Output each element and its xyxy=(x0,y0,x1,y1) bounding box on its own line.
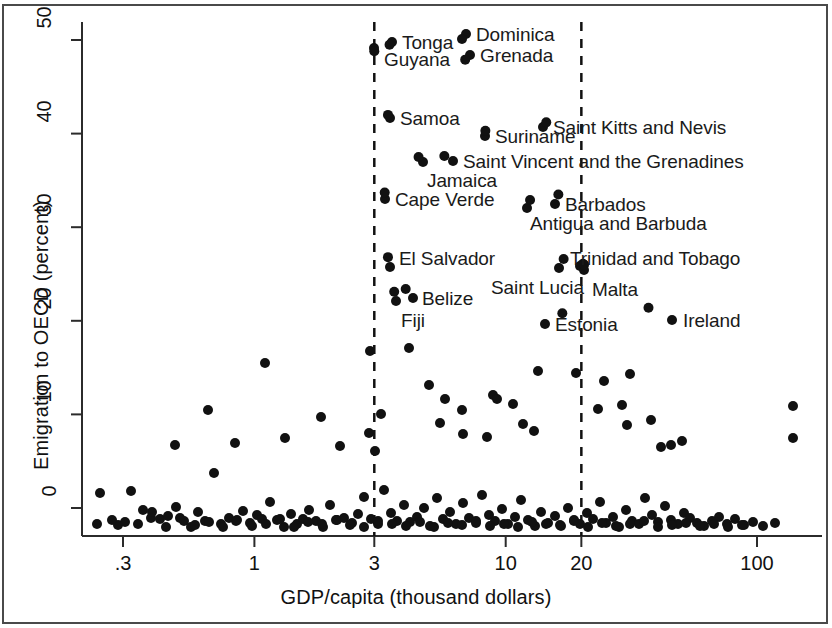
data-point xyxy=(260,358,270,368)
data-point xyxy=(660,501,670,511)
data-point xyxy=(275,514,285,524)
data-point xyxy=(203,405,213,415)
data-point xyxy=(621,505,631,515)
data-point xyxy=(510,512,520,522)
data-points xyxy=(92,29,798,532)
data-point xyxy=(788,401,798,411)
data-point xyxy=(695,521,705,531)
data-point xyxy=(399,500,409,510)
data-point xyxy=(364,428,374,438)
data-point xyxy=(499,519,509,529)
data-point xyxy=(171,502,181,512)
data-point xyxy=(653,522,663,532)
data-point-grenada xyxy=(460,55,470,65)
data-point xyxy=(518,419,528,429)
data-point-cape-verde xyxy=(380,188,390,198)
data-point xyxy=(415,517,425,527)
data-point xyxy=(597,518,607,528)
data-point xyxy=(435,418,445,428)
data-point xyxy=(477,490,487,500)
data-point xyxy=(536,507,546,517)
data-point xyxy=(770,518,780,528)
data-point xyxy=(265,497,275,507)
data-point xyxy=(289,522,299,532)
data-point xyxy=(316,412,326,422)
data-point xyxy=(401,521,411,531)
data-point-belize xyxy=(401,284,411,294)
data-point xyxy=(95,488,105,498)
data-point xyxy=(286,509,296,519)
point-label-grenada: Grenada xyxy=(480,45,553,67)
data-point xyxy=(527,517,537,527)
data-point xyxy=(667,315,677,325)
data-point-fiji xyxy=(389,287,399,297)
data-point-el-salvador xyxy=(383,252,393,262)
data-point xyxy=(563,503,573,513)
data-point xyxy=(386,508,396,518)
data-point xyxy=(218,522,228,532)
data-point xyxy=(448,156,458,166)
data-point xyxy=(569,515,579,525)
data-point xyxy=(625,369,635,379)
data-point xyxy=(639,516,649,526)
point-label-samoa: Samoa xyxy=(400,108,460,130)
data-point xyxy=(555,520,565,530)
data-point xyxy=(365,346,375,356)
data-point xyxy=(304,505,314,515)
data-point xyxy=(379,485,389,495)
data-point xyxy=(595,497,605,507)
data-point xyxy=(508,399,518,409)
point-label-malta: Malta xyxy=(592,279,638,301)
y-axis-title: Emigration to OECD (percent) xyxy=(30,200,53,470)
data-point xyxy=(458,498,468,508)
data-point xyxy=(485,521,495,531)
data-point xyxy=(457,405,467,415)
data-point xyxy=(622,420,632,430)
data-point xyxy=(723,522,733,532)
data-point xyxy=(540,319,550,329)
data-point xyxy=(482,432,492,442)
data-point xyxy=(92,519,102,529)
data-point xyxy=(533,366,543,376)
data-point xyxy=(432,493,442,503)
data-point xyxy=(646,415,656,425)
data-point xyxy=(440,394,450,404)
data-point xyxy=(317,519,327,529)
point-label-trinidad-and-tobago: Trinidad and Tobago xyxy=(570,248,740,270)
data-point-suriname xyxy=(480,126,490,136)
axes-lines xyxy=(71,22,822,547)
data-point xyxy=(373,516,383,526)
data-point-saint-vincent-and-the-grenadines xyxy=(439,151,449,161)
data-point xyxy=(599,376,609,386)
point-label-el-salvador: El Salvador xyxy=(399,248,495,270)
data-point xyxy=(175,513,185,523)
data-point xyxy=(677,436,687,446)
data-point xyxy=(656,442,666,452)
data-point xyxy=(408,293,418,303)
data-point xyxy=(666,440,676,450)
data-point xyxy=(359,522,369,532)
point-label-dominica: Dominica xyxy=(476,24,554,46)
point-label-saint-kitts-and-nevis: Saint Kitts and Nevis xyxy=(553,117,726,139)
data-point xyxy=(190,520,200,530)
data-point-antigua-and-barbuda xyxy=(525,195,535,205)
data-point xyxy=(232,515,242,525)
data-point xyxy=(163,511,173,521)
data-point xyxy=(238,506,248,516)
data-point xyxy=(593,404,603,414)
y-tick-label-20: 20 xyxy=(33,287,56,309)
data-point xyxy=(709,519,719,529)
point-label-saint-vincent-and-the-grenadines: Saint Vincent and the Grenadines xyxy=(463,151,744,173)
y-tick-label-40: 40 xyxy=(33,100,56,122)
data-point xyxy=(325,500,335,510)
data-point xyxy=(529,426,539,436)
data-point xyxy=(204,517,214,527)
data-point xyxy=(193,507,203,517)
data-point-saint-lucia xyxy=(559,254,569,264)
data-point xyxy=(419,503,429,513)
data-point xyxy=(611,521,621,531)
data-point xyxy=(424,380,434,390)
data-point xyxy=(492,394,502,404)
data-point xyxy=(353,509,363,519)
point-label-estonia: Estonia xyxy=(555,314,618,336)
